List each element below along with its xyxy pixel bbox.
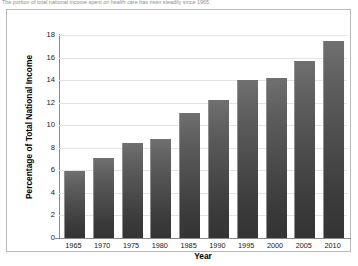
figure-frame: 024681012141618 196519701975198019851990… — [6, 9, 351, 252]
y-tick-label-18: 18 — [31, 31, 55, 39]
y-tick-label-12: 12 — [31, 99, 55, 107]
bar-2005 — [294, 61, 315, 238]
gridline-18 — [59, 35, 347, 36]
bar-1990 — [208, 100, 229, 238]
bar-1975 — [122, 143, 143, 238]
bar-2010 — [323, 41, 344, 238]
plot-area — [59, 35, 347, 238]
y-axis-title: Percentage of Total National Income — [24, 47, 34, 207]
y-tick-label-6: 6 — [31, 166, 55, 174]
y-tick-label-14: 14 — [31, 76, 55, 84]
bar-2000 — [266, 78, 287, 238]
y-tick-label-10: 10 — [31, 121, 55, 129]
gridline-0 — [59, 238, 347, 239]
figure-caption: The portion of total national income spe… — [2, 0, 356, 6]
bar-1970 — [93, 158, 114, 238]
bar-1985 — [179, 113, 200, 238]
x-axis-title: Year — [59, 251, 347, 261]
bar-1995 — [237, 80, 258, 238]
y-tick-label-0: 0 — [31, 234, 55, 242]
y-tick-label-2: 2 — [31, 211, 55, 219]
bar-1980 — [150, 139, 171, 238]
chart-page: The portion of total national income spe… — [0, 0, 358, 266]
y-tick-label-4: 4 — [31, 189, 55, 197]
x-tick-label-2010: 2010 — [316, 241, 350, 250]
bar-1965 — [64, 171, 85, 238]
y-tick-label-8: 8 — [31, 144, 55, 152]
y-tick-label-16: 16 — [31, 54, 55, 62]
gridline-16 — [59, 58, 347, 59]
